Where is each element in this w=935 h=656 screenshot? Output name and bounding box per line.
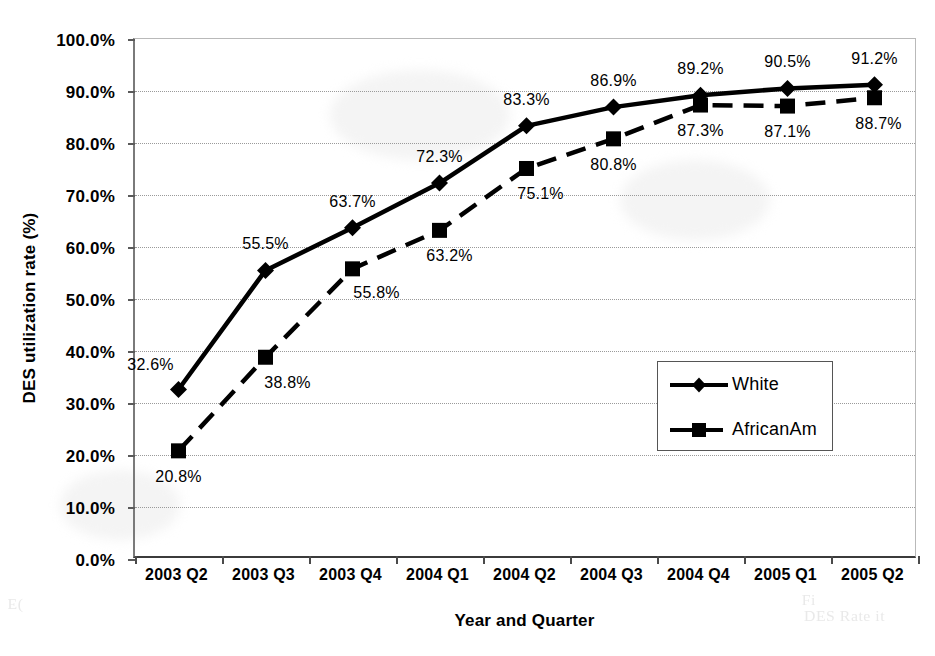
series-layer [135, 39, 918, 559]
y-axis-tick: 0.0% [128, 559, 135, 561]
legend-label-africanam: AfricanAm [732, 419, 817, 440]
data-label-white-1: 55.5% [242, 235, 288, 253]
x-axis-tick-label: 2004 Q2 [493, 566, 556, 584]
data-point-africanam-2[interactable] [345, 261, 360, 276]
data-point-africanam-6[interactable] [693, 98, 708, 113]
data-point-africanam-5[interactable] [606, 131, 621, 146]
plot-area: 0.0%10.0%20.0%30.0%40.0%50.0%60.0%70.0%8… [133, 38, 916, 558]
data-label-africanam-1: 38.8% [264, 374, 310, 392]
data-label-white-2: 63.7% [329, 193, 375, 211]
data-point-white-7[interactable] [779, 80, 796, 97]
y-axis-tick: 40.0% [128, 351, 135, 353]
y-axis-tick-label: 100.0% [56, 31, 115, 51]
x-axis-tick-label: 2005 Q2 [841, 566, 904, 584]
data-label-africanam-0: 20.8% [155, 468, 201, 486]
data-point-white-2[interactable] [344, 219, 361, 236]
data-label-white-3: 72.3% [416, 148, 462, 166]
x-axis-tick [918, 556, 920, 564]
y-axis-tick-label: 20.0% [66, 447, 115, 467]
x-axis-tick-label: 2005 Q1 [754, 566, 817, 584]
data-point-white-5[interactable] [605, 99, 622, 116]
data-label-africanam-6: 87.3% [677, 122, 723, 140]
data-point-africanam-7[interactable] [780, 99, 795, 114]
data-label-africanam-7: 87.1% [764, 123, 810, 141]
data-label-africanam-4: 75.1% [517, 185, 563, 203]
y-axis-tick: 80.0% [128, 143, 135, 145]
legend-label-white: White [732, 374, 779, 395]
scan-artifact-right-2: Fi [802, 592, 816, 609]
y-axis-tick-label: 90.0% [66, 83, 115, 103]
data-label-white-5: 86.9% [590, 72, 636, 90]
y-axis-tick-label: 80.0% [66, 135, 115, 155]
y-axis-tick-label: 60.0% [66, 239, 115, 259]
data-label-white-6: 89.2% [677, 60, 723, 78]
data-label-white-7: 90.5% [764, 53, 810, 71]
y-axis-tick-label: 50.0% [66, 291, 115, 311]
y-axis-tick-label: 30.0% [66, 395, 115, 415]
x-axis-tick-label: 2003 Q4 [319, 566, 382, 584]
data-label-africanam-3: 63.2% [426, 247, 472, 265]
y-axis-tick-label: 10.0% [66, 499, 115, 519]
y-axis-tick: 90.0% [128, 91, 135, 93]
data-label-white-4: 83.3% [503, 91, 549, 109]
x-axis-tick-label: 2003 Q3 [232, 566, 295, 584]
y-axis-title: DES utilization rate (%) [20, 128, 40, 488]
y-axis-tick-label: 40.0% [66, 343, 115, 363]
scan-artifact-left: E( [8, 596, 24, 613]
data-label-white-0: 32.6% [127, 356, 173, 374]
y-axis-tick: 30.0% [128, 403, 135, 405]
y-axis-tick: 50.0% [128, 299, 135, 301]
legend-swatch-africanam [668, 420, 730, 440]
y-axis-tick: 20.0% [128, 455, 135, 457]
x-axis-tick-label: 2004 Q4 [667, 566, 730, 584]
y-axis-tick: 60.0% [128, 247, 135, 249]
data-point-africanam-1[interactable] [258, 350, 273, 365]
data-point-africanam-4[interactable] [519, 161, 534, 176]
x-axis-tick-label: 2004 Q1 [406, 566, 469, 584]
x-axis-title: Year and Quarter [133, 611, 916, 631]
data-label-africanam-5: 80.8% [590, 156, 636, 174]
data-label-africanam-2: 55.8% [353, 284, 399, 302]
y-axis-tick-label: 70.0% [66, 187, 115, 207]
legend[interactable]: White AfricanAm [657, 361, 833, 451]
data-point-africanam-8[interactable] [867, 90, 882, 105]
x-axis-tick-label: 2003 Q2 [145, 566, 208, 584]
data-point-africanam-0[interactable] [171, 443, 186, 458]
data-point-africanam-3[interactable] [432, 223, 447, 238]
y-axis-tick: 10.0% [128, 507, 135, 509]
x-axis-tick-label: 2004 Q3 [580, 566, 643, 584]
y-axis-tick: 100.0% [128, 39, 135, 41]
legend-item-africanam[interactable]: AfricanAm [658, 407, 832, 452]
y-axis-tick: 70.0% [128, 195, 135, 197]
legend-item-white[interactable]: White [658, 362, 832, 407]
data-label-white-8: 91.2% [851, 50, 897, 68]
chart-page: E( DES Rate it Fi DES utilization rate (… [0, 0, 935, 656]
y-axis-tick-label: 0.0% [75, 551, 115, 571]
legend-swatch-white [668, 375, 730, 395]
data-label-africanam-8: 88.7% [855, 115, 901, 133]
